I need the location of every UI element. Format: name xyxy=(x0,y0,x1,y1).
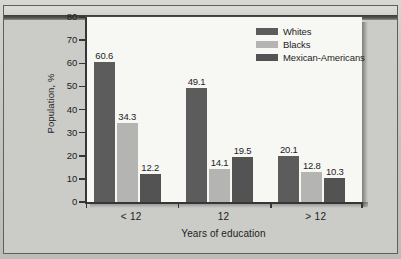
figure-container: 01020304050607080 Population, % < 1212> … xyxy=(0,0,401,259)
x-axis-title: Years of education xyxy=(85,228,362,239)
x-axis-tick-label: < 12 xyxy=(85,211,177,222)
legend-item: Blacks xyxy=(256,39,365,51)
x-axis-tick xyxy=(361,202,363,208)
bar-value-label: 34.3 xyxy=(111,112,144,122)
bar-value-label: 19.5 xyxy=(226,146,259,156)
y-axis-tick-label: 50 xyxy=(53,81,77,91)
y-axis-tick-label: 70 xyxy=(53,35,77,45)
y-axis-tick-label: 40 xyxy=(53,105,77,115)
legend-item: Mexican-Americans xyxy=(256,52,365,64)
y-axis-title: Population, % xyxy=(45,49,56,159)
legend-color-swatch xyxy=(256,41,278,48)
y-axis-tick-label: 80 xyxy=(53,12,77,22)
y-axis-tick-label: 10 xyxy=(53,174,77,184)
bar-value-label: 12.2 xyxy=(134,163,167,173)
y-axis-tick-label: 60 xyxy=(53,58,77,68)
x-axis-tick-label: > 12 xyxy=(270,211,362,222)
bar-value-label: 14.1 xyxy=(203,158,236,168)
legend-color-swatch xyxy=(256,54,278,61)
legend-label: Blacks xyxy=(283,40,310,50)
bar-value-label: 20.1 xyxy=(272,145,305,155)
x-axis-line xyxy=(85,202,362,204)
y-axis-title-wrapper: Population, % xyxy=(30,0,50,259)
x-axis-tick xyxy=(270,202,272,208)
legend-item: Whites xyxy=(256,26,365,38)
x-axis-tick-label: 12 xyxy=(177,211,269,222)
x-axis-tick xyxy=(86,202,88,208)
bar-value-label: 10.3 xyxy=(318,167,351,177)
legend-color-swatch xyxy=(256,28,278,35)
x-axis-tick xyxy=(178,202,180,208)
y-axis-tick-label: 0 xyxy=(53,197,77,207)
legend-label: Mexican-Americans xyxy=(283,53,365,63)
chart-legend: WhitesBlacksMexican-Americans xyxy=(256,26,365,65)
legend-label: Whites xyxy=(283,27,311,37)
y-axis-tick-label: 30 xyxy=(53,128,77,138)
bar-value-label: 49.1 xyxy=(180,77,213,87)
bar-value-label: 60.6 xyxy=(88,51,121,61)
y-axis-tick-label: 20 xyxy=(53,151,77,161)
